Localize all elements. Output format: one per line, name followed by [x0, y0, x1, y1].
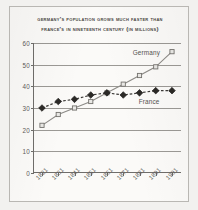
germany-data-point — [72, 106, 76, 110]
y-tick — [31, 173, 34, 174]
y-axis-label: 50 — [23, 61, 30, 68]
y-axis-label: 20 — [23, 126, 30, 133]
france-data-point — [87, 92, 94, 99]
germany-data-point — [121, 82, 125, 86]
france-series-label: France — [139, 98, 160, 105]
france-data-point — [136, 90, 143, 97]
france-data-point — [169, 87, 176, 94]
y-axis-label: 0 — [26, 170, 30, 177]
germany-data-point — [170, 50, 174, 54]
germany-data-point — [56, 112, 60, 116]
germany-series-label: Germany — [133, 49, 160, 56]
chart-title-line-2: France's in Nineteenth Century (in milli… — [16, 24, 184, 34]
germany-line — [42, 52, 172, 126]
germany-data-point — [40, 123, 44, 127]
germany-data-point — [89, 99, 93, 103]
y-axis-label: 10 — [23, 148, 30, 155]
france-data-point — [71, 96, 78, 103]
plot-area: 0102030405060 18211831184118511861187118… — [33, 43, 181, 173]
y-axis-label: 40 — [23, 83, 30, 90]
germany-data-point — [154, 65, 158, 69]
germany-markers — [40, 50, 174, 128]
france-data-point — [55, 98, 62, 105]
chart-frame: Germany's Population Grows Much Faster t… — [9, 6, 189, 202]
france-data-point — [120, 92, 127, 99]
chart-title: Germany's Population Grows Much Faster t… — [16, 14, 184, 33]
france-data-point — [152, 87, 159, 94]
y-axis-label: 30 — [23, 105, 30, 112]
y-axis-label: 60 — [23, 40, 30, 47]
chart-title-line-1: Germany's Population Grows Much Faster t… — [16, 14, 184, 24]
france-data-point — [39, 105, 46, 112]
series-layer — [33, 43, 181, 173]
germany-data-point — [137, 73, 141, 77]
